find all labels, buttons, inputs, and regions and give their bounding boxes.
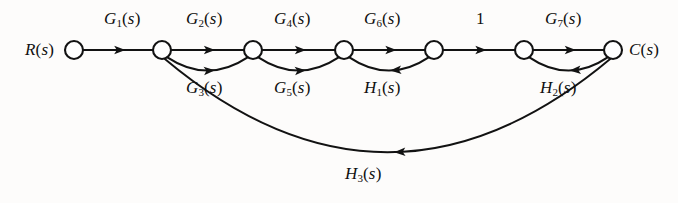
branch-label-h1-tail: (s) bbox=[382, 78, 401, 97]
branch-b-h1 bbox=[349, 57, 429, 70]
branch-label-g1-base: G bbox=[104, 9, 116, 28]
node-label-input-base: R bbox=[25, 40, 36, 59]
branch-label-one-base: 1 bbox=[476, 9, 485, 28]
branch-label-g6: G6(s) bbox=[364, 10, 401, 29]
branch-label-g7-tail: (s) bbox=[563, 9, 582, 28]
signal-flow-graph-canvas bbox=[0, 0, 678, 203]
branch-label-g4-base: G bbox=[274, 9, 286, 28]
node-label-output-base: C bbox=[629, 40, 641, 59]
branch-label-g2-base: G bbox=[186, 9, 198, 28]
branch-label-g3-base: G bbox=[186, 78, 198, 97]
branch-label-g4: G4(s) bbox=[274, 10, 311, 29]
branch-label-h1: H1(s) bbox=[364, 79, 401, 98]
node-n4 bbox=[335, 41, 353, 59]
branch-label-g7-base: G bbox=[545, 9, 557, 28]
branch-label-h2-base: H bbox=[540, 78, 552, 97]
branch-label-g1-tail: (s) bbox=[122, 9, 141, 28]
node-n7 bbox=[604, 41, 622, 59]
node-label-output-tail: (s) bbox=[641, 40, 660, 59]
branch-label-g3: G3(s) bbox=[186, 79, 223, 98]
node-label-output: C(s) bbox=[629, 41, 659, 58]
branch-label-h3-base: H bbox=[345, 164, 357, 183]
branch-label-h2-tail: (s) bbox=[558, 78, 577, 97]
node-n2 bbox=[153, 41, 171, 59]
node-n1 bbox=[65, 41, 83, 59]
branch-label-g5: G5(s) bbox=[274, 79, 311, 98]
branch-label-g4-tail: (s) bbox=[292, 9, 311, 28]
node-n6 bbox=[515, 41, 533, 59]
node-label-input-tail: (s) bbox=[36, 40, 55, 59]
branch-label-h1-base: H bbox=[364, 78, 376, 97]
node-n3 bbox=[244, 41, 262, 59]
branch-label-g5-tail: (s) bbox=[292, 78, 311, 97]
branch-label-g6-tail: (s) bbox=[382, 9, 401, 28]
branch-label-h3: H3(s) bbox=[345, 165, 382, 184]
signal-flow-graph-figure: G1(s) G2(s) G3(s) G4(s) G5(s) G6(s) H1(s… bbox=[0, 0, 678, 203]
branch-label-g3-tail: (s) bbox=[204, 78, 223, 97]
node-n5 bbox=[425, 41, 443, 59]
branch-label-h2: H2(s) bbox=[540, 79, 577, 98]
branch-label-g2: G2(s) bbox=[186, 10, 223, 29]
branch-b-h3 bbox=[164, 59, 611, 153]
branch-label-h3-tail: (s) bbox=[363, 164, 382, 183]
branch-label-g2-tail: (s) bbox=[204, 9, 223, 28]
branch-label-g7: G7(s) bbox=[545, 10, 582, 29]
branch-label-g1: G1(s) bbox=[104, 10, 141, 29]
branch-b-h2 bbox=[529, 57, 608, 70]
branch-label-g6-base: G bbox=[364, 9, 376, 28]
branch-label-g5-base: G bbox=[274, 78, 286, 97]
branch-label-one: 1 bbox=[476, 10, 485, 27]
node-label-input: R(s) bbox=[25, 41, 54, 58]
